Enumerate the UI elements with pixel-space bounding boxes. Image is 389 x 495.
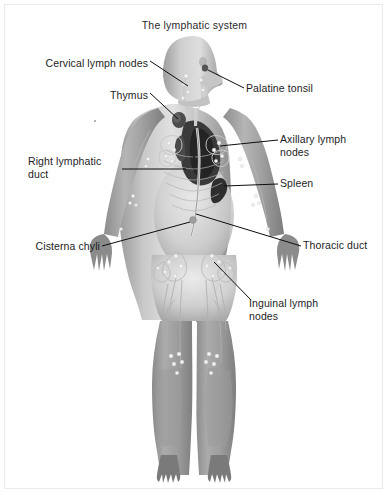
label-spleen: Spleen — [280, 177, 360, 190]
label-right-lymphatic-duct: Right lymphatic duct — [28, 155, 120, 180]
label-axillary-lymph-nodes: Axillary lymph nodes — [280, 133, 384, 158]
label-cervical-lymph-nodes: Cervical lymph nodes — [30, 57, 148, 70]
thymus-organ — [172, 112, 186, 128]
body-silhouette — [90, 36, 300, 483]
palatine-tonsil-organ — [202, 64, 208, 71]
label-palatine-tonsil: Palatine tonsil — [246, 82, 356, 95]
image-speck — [94, 120, 96, 122]
label-thoracic-duct: Thoracic duct — [303, 239, 389, 252]
lymphatic-system-figure: The lymphatic system — [0, 0, 389, 495]
label-thymus: Thymus — [50, 89, 148, 102]
label-cisterna-chyli: Cisterna chyli — [14, 240, 100, 253]
label-inguinal-lymph-nodes: Inguinal lymph nodes — [249, 297, 353, 322]
